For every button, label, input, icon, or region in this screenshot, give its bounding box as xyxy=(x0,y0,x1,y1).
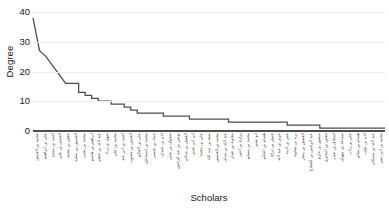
x-tick-label: هشام بن الحكم xyxy=(260,133,268,190)
y-tick-label: 0 xyxy=(8,126,30,136)
x-tick-label: علي بن رئاب xyxy=(346,133,354,190)
x-tick-label-text: ابان بن تغلب xyxy=(363,133,367,155)
y-tick-label: 10 xyxy=(8,96,30,106)
x-tick-label-text: علي بن رئاب xyxy=(348,133,352,155)
x-tick-label: عبد الرحمن بن الحجاج xyxy=(307,133,315,190)
y-tick-label: 40 xyxy=(8,7,30,17)
x-tick-label: سعد بن عبد الله xyxy=(205,133,213,190)
x-tick-label-text: سماعة بن مهران xyxy=(340,133,344,162)
y-tick-label: 20 xyxy=(8,67,30,77)
x-tick-label-text: ابان بن عثمان xyxy=(160,133,164,157)
x-tick-label-text: حفص بن البختري xyxy=(324,133,328,162)
y-axis-tick-labels: 010203040 xyxy=(4,0,30,213)
x-tick-label-text: الفضيل بن يسار xyxy=(301,133,305,160)
x-tick-label: عبد الله بن جعفر xyxy=(95,133,103,190)
x-tick-label: صفوان بن يحيى xyxy=(166,133,174,190)
x-tick-label-text: علي بن محمد xyxy=(199,133,203,156)
x-tick-label: ابان بن تغلب xyxy=(361,133,369,190)
x-tick-label-text: ابو بصير xyxy=(254,133,258,147)
x-tick-label: محمد بن يحيى xyxy=(80,133,88,190)
x-tick-label: محمد بن الحسن xyxy=(33,133,41,190)
x-tick-label: الفضل بن شاذان xyxy=(182,133,190,190)
x-tick-label: سماعة بن مهران xyxy=(338,133,346,190)
x-tick-label-text: يونس بن عبد الرحمن xyxy=(176,133,180,169)
degree-distribution-chart: Degree 010203040 محمد بن الحسنعلي بن ابر… xyxy=(0,0,389,213)
x-tick-label-text: سهل بن زياد xyxy=(105,133,109,154)
x-tick-label-text: الحسين بن سعيد xyxy=(74,133,78,162)
x-tick-label: جميل بن دراج xyxy=(268,133,276,190)
x-tick-label-text: جميل بن دراج xyxy=(270,133,274,157)
x-tick-label: حفص بن البختري xyxy=(322,133,330,190)
x-tick-label: الحسن بن علي xyxy=(56,133,64,190)
x-tick-label: يونس بن عبد الرحمن xyxy=(174,133,182,190)
x-tick-label-text: محمد بن الحسن xyxy=(35,133,39,161)
x-tick-label-text: محمد بن الحسين xyxy=(215,133,219,162)
gridline xyxy=(33,12,385,13)
x-tick-label: عبد الله بن سنان xyxy=(221,133,229,190)
x-tick-label-text: سعد بن عبد الله xyxy=(207,133,211,160)
gridline xyxy=(33,72,385,73)
x-tick-label-text: الفضل بن شاذان xyxy=(183,133,187,162)
x-tick-label: احمد بن ابي عبد xyxy=(119,133,127,190)
gridline xyxy=(33,42,385,43)
x-tick-label: محمد بن الحسين xyxy=(213,133,221,190)
x-tick-label-text: حماد بن عيسى xyxy=(152,133,156,159)
plot-area xyxy=(33,12,385,131)
x-tick-label-text: عمر بن اذينة xyxy=(285,133,289,154)
x-tick-label: منصور بن حازم xyxy=(315,133,323,190)
x-tick-label: سهل بن زياد xyxy=(103,133,111,190)
x-tick-label: الفضيل بن يسار xyxy=(299,133,307,190)
x-tick-label: ابن ابي عمير xyxy=(189,133,197,190)
x-tick-label-text: محمد بن مسلم xyxy=(246,133,250,159)
x-tick-label: ابو بصير xyxy=(252,133,260,190)
x-tick-label-text: بريد بن معاوية xyxy=(293,133,297,157)
x-tick-label: محمد بن اسماعيل xyxy=(142,133,150,190)
x-tick-label: علي بن ابراهيم xyxy=(41,133,49,190)
x-tick-label-text: عبد الله بن جعفر xyxy=(97,133,101,162)
x-axis-tick-labels: محمد بن الحسنعلي بن ابراهيماحمد بن محمدا… xyxy=(33,133,385,190)
x-tick-label-text: احمد بن محمد xyxy=(51,133,55,157)
x-tick-label-text: زرارة بن اعين xyxy=(238,133,242,157)
x-tick-label: اسحاق بن عمار xyxy=(330,133,338,190)
x-tick-label-text: علي بن الحكم xyxy=(137,133,141,157)
x-tick-label: عبد الله بن مسكان xyxy=(369,133,377,190)
x-tick-label-text: محمد بن يحيى xyxy=(82,133,86,158)
x-tick-label: هشام بن سالم xyxy=(354,133,362,190)
x-tick-label-text: محمد بن اسماعيل xyxy=(144,133,148,164)
x-tick-label-text: احمد بن ابي عبد xyxy=(121,133,125,161)
x-tick-label-text: محمد بن ابي نصر xyxy=(379,133,383,163)
x-tick-label: ابراهيم بن هاشم xyxy=(88,133,96,190)
x-tick-label: الحسين بن سعيد xyxy=(72,133,80,190)
x-tick-label: احمد بن محمد xyxy=(49,133,57,190)
x-tick-label-text: علي بن ابراهيم xyxy=(43,133,47,159)
x-tick-label: ابان بن عثمان xyxy=(158,133,166,190)
x-tick-label: جعفر بن محمد xyxy=(64,133,72,190)
x-tick-label-text: منصور بن حازم xyxy=(316,133,320,159)
x-tick-label-text: اسحاق بن عمار xyxy=(332,133,336,160)
x-tick-label-text: عبد الله بن مسكان xyxy=(371,133,375,165)
y-tick-label: 30 xyxy=(8,37,30,47)
x-tick-label: زرارة بن اعين xyxy=(236,133,244,190)
x-axis-title: Scholars xyxy=(33,192,385,203)
x-tick-label-text: ابراهيم بن هاشم xyxy=(90,133,94,161)
x-tick-label-text: ابن ابي عمير xyxy=(191,133,195,155)
gridline xyxy=(33,101,385,102)
x-tick-label: علي بن محمد xyxy=(197,133,205,190)
x-tick-label-text: عبد الله بن سنان xyxy=(223,133,227,162)
x-tick-label: بريد بن معاوية xyxy=(291,133,299,190)
x-tick-label: محمد بن ابي نصر xyxy=(377,133,385,190)
x-tick-label: حماد بن عيسى xyxy=(150,133,158,190)
x-tick-label: عمر بن اذينة xyxy=(283,133,291,190)
x-tick-label: محمد بن علي xyxy=(111,133,119,190)
x-tick-label: علي بن الحكم xyxy=(135,133,143,190)
x-axis-line xyxy=(33,130,385,132)
x-tick-label-text: عبد الرحمن بن الحجاج xyxy=(309,133,313,171)
x-tick-label-text: معاوية بن عمار xyxy=(230,133,234,159)
x-tick-label: محمد بن مسلم xyxy=(244,133,252,190)
x-tick-label-text: هشام بن الحكم xyxy=(262,133,266,159)
x-tick-label-text: هشام بن سالم xyxy=(356,133,360,158)
x-tick-label-text: جعفر بن محمد xyxy=(66,133,70,158)
x-tick-label-text: محمد بن علي xyxy=(113,133,117,156)
x-tick-label-text: الحسن بن محبوب xyxy=(129,133,133,164)
x-tick-label: الحسن بن محبوب xyxy=(127,133,135,190)
